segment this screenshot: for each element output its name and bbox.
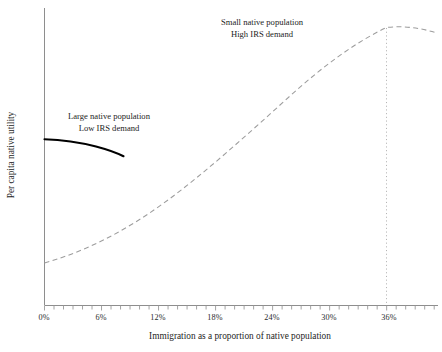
x-axis-title: Immigration as a proportion of native po… [149,331,331,341]
x-tick-label-5: 30% [321,313,336,322]
chart-plot-area [0,0,442,352]
y-axis-title: Per capita native utility [6,112,16,199]
x-tick-label-2: 12% [150,313,165,322]
x-tick-label-3: 18% [207,313,222,322]
large-native-population-annotation-line1: Large native population [68,110,150,122]
large-native-population-curve [45,139,124,156]
small-native-population-annotation-line1: Small native population [221,16,303,28]
x-axis-tick-marks [45,306,435,311]
x-tick-label-4: 24% [264,313,279,322]
x-tick-label-6: 36% [381,313,396,322]
small-native-population-curve [45,27,438,263]
large-native-population-annotation-line2: Low IRS demand [68,122,150,134]
x-tick-label-1: 6% [95,313,106,322]
x-tick-label-0: 0% [38,313,49,322]
small-native-population-annotation: Small native population High IRS demand [221,16,303,41]
chart-figure: 0% 6% 12% 18% 24% 30% 36% Small native p… [0,0,442,352]
small-native-population-annotation-line2: High IRS demand [221,28,303,40]
large-native-population-annotation: Large native population Low IRS demand [68,110,150,135]
